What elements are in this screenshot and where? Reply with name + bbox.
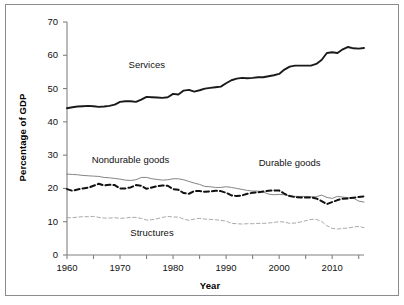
axis-ticks	[63, 22, 359, 259]
series-label-durable-goods: Durable goods	[259, 157, 321, 168]
series-label-structures: Structures	[130, 227, 173, 238]
series-label-nondurable-goods: Nondurable goods	[92, 154, 170, 165]
data-series-group	[67, 47, 364, 229]
y-tick-label: 30	[32, 149, 58, 160]
x-tick-label: 2000	[259, 262, 299, 273]
y-tick-label: 10	[32, 216, 58, 227]
x-tick-label: 1990	[206, 262, 246, 273]
y-tick-label: 40	[32, 116, 58, 127]
series-label-services: Services	[129, 59, 165, 70]
y-tick-label: 70	[32, 16, 58, 27]
y-tick-label: 50	[32, 83, 58, 94]
x-tick-label: 2010	[312, 262, 352, 273]
x-axis-title: Year	[150, 280, 270, 291]
x-tick-label: 1960	[47, 262, 87, 273]
series-line-structures	[67, 216, 364, 229]
y-tick-label: 60	[32, 49, 58, 60]
series-line-services	[67, 47, 364, 108]
chart-plot-area	[0, 0, 404, 305]
x-tick-label: 1970	[100, 262, 140, 273]
series-line-durable-goods	[67, 184, 364, 204]
series-line-nondurable-goods	[67, 174, 364, 202]
y-tick-label: 0	[32, 249, 58, 260]
figure-container: Percentage of GDP Year 010203040506070 1…	[0, 0, 404, 305]
x-tick-label: 1980	[153, 262, 193, 273]
y-axis-title: Percentage of GDP	[17, 83, 28, 193]
y-tick-label: 20	[32, 182, 58, 193]
